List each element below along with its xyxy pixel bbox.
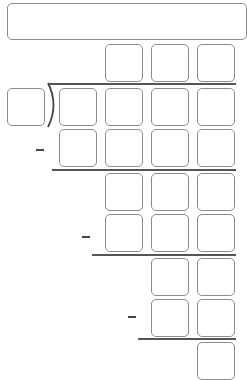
subtract-1-cell-4[interactable] <box>197 129 235 167</box>
remainder-3-cell-2[interactable] <box>197 258 235 296</box>
subtract-2-cell-3[interactable] <box>197 214 235 252</box>
dividend-cell-1[interactable] <box>59 88 97 126</box>
quotient-cell-3[interactable] <box>197 44 235 82</box>
final-remainder-cell[interactable] <box>197 342 235 380</box>
answer-input[interactable] <box>7 3 247 40</box>
minus-sign-2 <box>82 236 90 238</box>
dividend-cell-2[interactable] <box>105 88 143 126</box>
minus-sign-3 <box>128 316 136 318</box>
subtraction-line-1 <box>52 169 236 171</box>
dividend-cell-3[interactable] <box>151 88 189 126</box>
subtract-1-cell-3[interactable] <box>151 129 189 167</box>
remainder-2-cell-3[interactable] <box>197 173 235 211</box>
subtraction-line-2 <box>92 254 236 256</box>
subtract-1-cell-1[interactable] <box>59 129 97 167</box>
minus-sign-1 <box>36 149 44 151</box>
dividend-cell-4[interactable] <box>197 88 235 126</box>
divisor-cell[interactable] <box>7 88 45 126</box>
quotient-cell-2[interactable] <box>151 44 189 82</box>
subtraction-line-3 <box>138 338 236 340</box>
subtract-2-cell-2[interactable] <box>151 214 189 252</box>
subtract-2-cell-1[interactable] <box>105 214 143 252</box>
subtract-1-cell-2[interactable] <box>105 129 143 167</box>
remainder-2-cell-2[interactable] <box>151 173 189 211</box>
remainder-2-cell-1[interactable] <box>105 173 143 211</box>
subtract-3-cell-2[interactable] <box>197 299 235 337</box>
subtract-3-cell-1[interactable] <box>151 299 189 337</box>
quotient-cell-1[interactable] <box>105 44 143 82</box>
division-bar <box>49 83 236 85</box>
division-bracket-icon <box>46 82 58 128</box>
remainder-3-cell-1[interactable] <box>151 258 189 296</box>
